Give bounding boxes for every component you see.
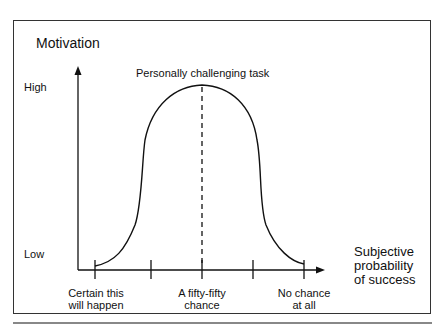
motivation-curve (95, 85, 304, 266)
diagram-graphics (0, 0, 444, 327)
y-axis-arrow-icon (75, 66, 82, 75)
x-axis-arrow-icon (316, 267, 325, 274)
